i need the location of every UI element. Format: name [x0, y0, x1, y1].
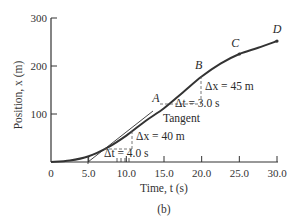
tangent-dx-label: Δx = 40 m [136, 130, 185, 142]
y-tick-label: 100 [31, 108, 48, 120]
x-tick-label: 15.0 [154, 167, 174, 179]
tangent-dt-label: Δt = 4.0 s [104, 147, 149, 159]
y-axis-title: Position, x (m) [12, 60, 25, 129]
x-tick-label: 20.0 [192, 167, 212, 179]
position-curve [51, 41, 277, 162]
x-ticks: 05.010.015.020.025.030.0 [48, 156, 287, 179]
x-tick-label: 0 [48, 167, 54, 179]
y-ticks: 100200300 [31, 12, 58, 120]
position-time-chart: 100200300 05.010.015.020.025.030.0 Tange… [0, 0, 298, 223]
y-tick-label: 300 [31, 12, 48, 24]
tangent-label: Tangent [163, 112, 201, 125]
y-tick-label: 200 [31, 60, 48, 72]
x-axis-title: Time, t (s) [140, 182, 188, 195]
x-tick-label: 30.0 [267, 167, 287, 179]
point-label-b: B [195, 58, 203, 72]
figure-caption: (b) [157, 203, 171, 216]
ab-dx-label: Δx = 45 m [205, 80, 254, 92]
ab-dt-label: Δt = 3.0 s [175, 97, 220, 109]
x-tick-label: 25.0 [230, 167, 250, 179]
x-tick-label: 10.0 [117, 167, 137, 179]
point-label-c: C [231, 36, 240, 50]
curve-layer [51, 41, 277, 162]
point-labels: ABCD [151, 22, 281, 105]
point-label-d: D [272, 22, 282, 36]
point-label-a: A [151, 91, 160, 105]
x-tick-label: 5.0 [82, 167, 96, 179]
